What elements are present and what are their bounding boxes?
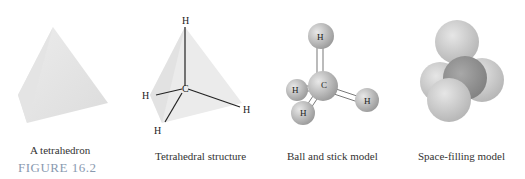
atom-h-left: H	[142, 90, 149, 101]
panel-tetrahedron: A tetrahedron	[0, 0, 130, 150]
ball-and-stick-diagram: H C H H H	[265, 0, 395, 140]
caption-tetrahedron: A tetrahedron	[30, 144, 90, 156]
ball-h-right: H	[364, 96, 371, 106]
panel-space-filling: Space-filling model	[390, 0, 525, 170]
atom-c: C	[182, 83, 189, 94]
space-filling-diagram	[390, 0, 525, 140]
atom-h-bottom: H	[154, 125, 161, 136]
ball-h-bottom: H	[300, 108, 307, 118]
atom-h-top: H	[182, 15, 189, 26]
panel-ball-and-stick: H C H H H Ball and stick model	[265, 0, 395, 170]
caption-tetrahedral-structure: Tetrahedral structure	[155, 150, 246, 162]
ball-h-top: H	[317, 32, 324, 42]
tetrahedron-shape	[0, 0, 130, 140]
figure-label: FIGURE 16.2	[18, 160, 96, 176]
panel-tetrahedral-structure: H C H H H Tetrahedral structure	[130, 0, 265, 150]
caption-ball-and-stick: Ball and stick model	[287, 150, 378, 162]
ball-h-left: H	[292, 85, 299, 95]
atom-h-right: H	[243, 104, 250, 115]
tetrahedral-structure-diagram: H C H H H	[130, 0, 265, 140]
ball-c: C	[321, 80, 327, 90]
caption-space-filling: Space-filling model	[418, 150, 505, 162]
